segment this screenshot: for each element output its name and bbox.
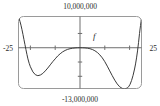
y-max-label: 10,000,000 (0, 3, 160, 11)
x-max-label: 25 (150, 45, 158, 53)
graphing-calculator-screenshot: 10,000,000 -25 25 -13,000,000 f (0, 0, 160, 106)
y-min-label: -13,000,000 (0, 96, 160, 104)
x-min-label: -25 (3, 45, 13, 53)
plot-area (18, 16, 142, 89)
plot-frame (18, 16, 142, 89)
axes-group (19, 17, 142, 89)
